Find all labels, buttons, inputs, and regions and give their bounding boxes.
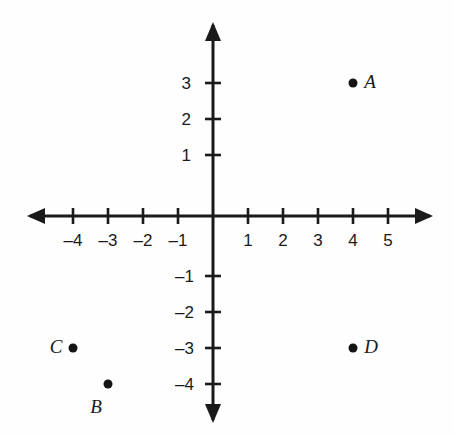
y-tick-label--2: –2	[175, 304, 194, 321]
point-label-c: C	[50, 337, 63, 356]
arrow-right-icon	[415, 208, 433, 224]
point-dot-a[interactable]	[349, 79, 358, 88]
x-tick-label-4: 4	[348, 232, 357, 249]
x-tick-label--3: –3	[99, 232, 118, 249]
point-label-d: D	[364, 337, 378, 356]
y-tick-label--3: –3	[175, 340, 194, 357]
x-axis-group	[27, 208, 433, 224]
x-tick-label-5: 5	[383, 232, 392, 249]
y-tick-label--4: –4	[175, 376, 194, 393]
x-tick-label-3: 3	[313, 232, 322, 249]
y-tick-label-1: 1	[182, 147, 191, 164]
x-tick-label--2: –2	[134, 232, 153, 249]
arrow-down-icon	[205, 404, 221, 423]
coordinate-axes-svg	[0, 0, 454, 436]
point-label-a: A	[364, 72, 376, 91]
arrow-up-icon	[205, 22, 221, 41]
point-dot-d[interactable]	[349, 344, 358, 353]
y-tick-label-2: 2	[182, 111, 191, 128]
arrow-left-icon	[27, 208, 45, 224]
point-dot-b[interactable]	[104, 380, 113, 389]
point-dot-c[interactable]	[69, 344, 78, 353]
point-label-b: B	[90, 397, 102, 416]
y-tick-label--1: –1	[175, 268, 194, 285]
x-tick-label-1: 1	[243, 232, 252, 249]
x-tick-label--4: –4	[64, 232, 83, 249]
x-tick-label--1: –1	[169, 232, 188, 249]
y-tick-label-3: 3	[182, 75, 191, 92]
x-tick-label-2: 2	[278, 232, 287, 249]
coordinate-plane-figure: –4 –3 –2 –1 1 2 3 4 5 3 2 1 –1 –2 –3 –4 …	[0, 0, 454, 436]
